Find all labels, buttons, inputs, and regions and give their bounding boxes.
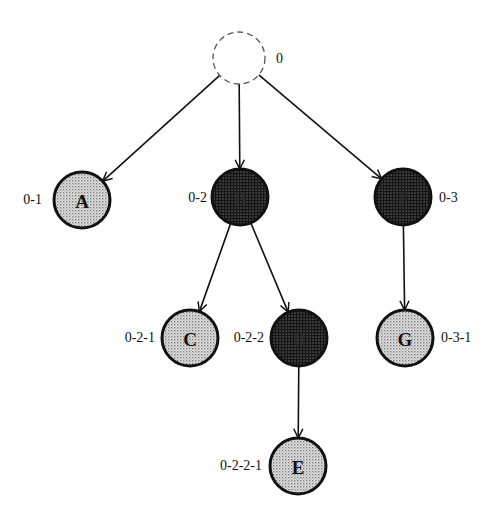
edge-arrow-root-A — [103, 75, 220, 181]
node-path-label: 0-2-2 — [234, 330, 264, 345]
node-B: B0-2 — [188, 169, 268, 225]
edge-arrow-F-G — [403, 225, 404, 310]
node-C: C0-2-1 — [125, 310, 218, 366]
edge-arrow-D-E — [298, 366, 299, 438]
node-path-label: 0-2-1 — [125, 330, 155, 345]
node-path-label: 0-2-2-1 — [220, 458, 262, 473]
edge-arrow-B-D — [251, 223, 288, 312]
node-path-label: 0-3 — [439, 190, 458, 205]
edge-arrow-root-F — [259, 75, 382, 179]
node-G: G0-3-1 — [377, 310, 471, 366]
edge-arrow-root-B — [239, 84, 240, 169]
tree-diagram: 0A0-1B0-2F0-3C0-2-1D0-2-2G0-3-1E0-2-2-1 — [0, 0, 487, 528]
edges-group — [103, 75, 405, 438]
node-path-label: 0 — [276, 51, 283, 66]
node-letter: C — [183, 329, 197, 350]
node-letter: F — [397, 188, 409, 209]
node-letter: E — [292, 457, 305, 478]
node-letter: B — [234, 188, 247, 209]
node-path-label: 0-1 — [23, 192, 42, 207]
node-letter: D — [292, 329, 306, 350]
node-path-label: 0-2 — [188, 190, 207, 205]
node-D: D0-2-2 — [234, 310, 327, 366]
node-E: E0-2-2-1 — [220, 438, 326, 494]
node-circle-root — [213, 32, 265, 84]
node-root: 0 — [213, 32, 283, 84]
edge-arrow-B-C — [199, 223, 230, 311]
node-letter: A — [75, 191, 89, 212]
node-F: F0-3 — [375, 169, 458, 225]
node-letter: G — [398, 329, 413, 350]
node-path-label: 0-3-1 — [441, 330, 471, 345]
node-A: A0-1 — [23, 172, 110, 228]
